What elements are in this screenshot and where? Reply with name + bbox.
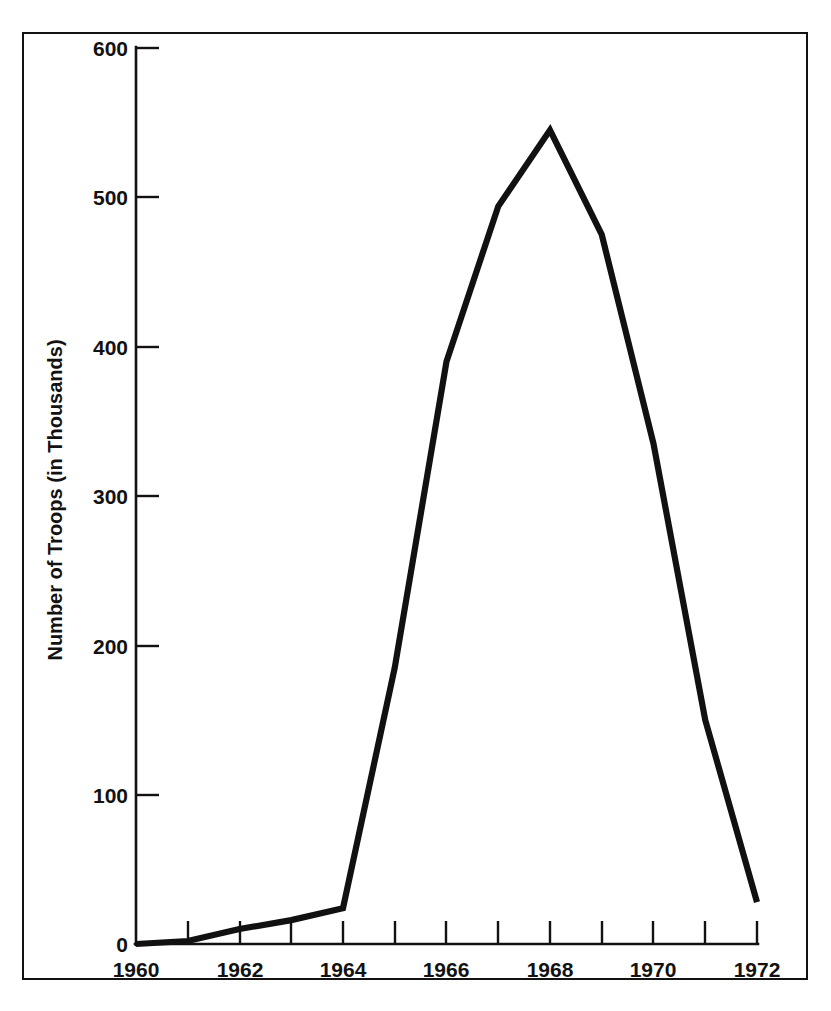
y-tick-label-0: 0: [116, 933, 128, 956]
x-tick-label-1972: 1972: [734, 958, 781, 981]
x-tick-label-1970: 1970: [630, 958, 677, 981]
y-tick-label-400: 400: [93, 336, 128, 359]
y-tick-label-100: 100: [93, 784, 128, 807]
y-axis-title: Number of Troops (in Thousands): [44, 339, 66, 660]
y-tick-label-600: 600: [93, 37, 128, 60]
figure-root: 600 500 400 300 200 100 0 1960 1962: [0, 0, 831, 1011]
x-tick-label-1968: 1968: [527, 958, 574, 981]
x-tick-label-1966: 1966: [423, 958, 470, 981]
y-tick-label-200: 200: [93, 635, 128, 658]
y-tick-label-500: 500: [93, 186, 128, 209]
y-tick-marks: [136, 48, 159, 795]
x-tick-labels: 1960 1962 1964 1966 1968 1970 1972: [113, 958, 781, 981]
y-tick-label-300: 300: [93, 485, 128, 508]
x-tick-label-1964: 1964: [320, 958, 367, 981]
line-chart: 600 500 400 300 200 100 0 1960 1962: [0, 0, 831, 1011]
x-tick-label-1960: 1960: [113, 958, 160, 981]
troops-line-series: [136, 130, 757, 944]
x-tick-label-1962: 1962: [217, 958, 264, 981]
y-tick-labels: 600 500 400 300 200 100 0: [93, 37, 128, 956]
